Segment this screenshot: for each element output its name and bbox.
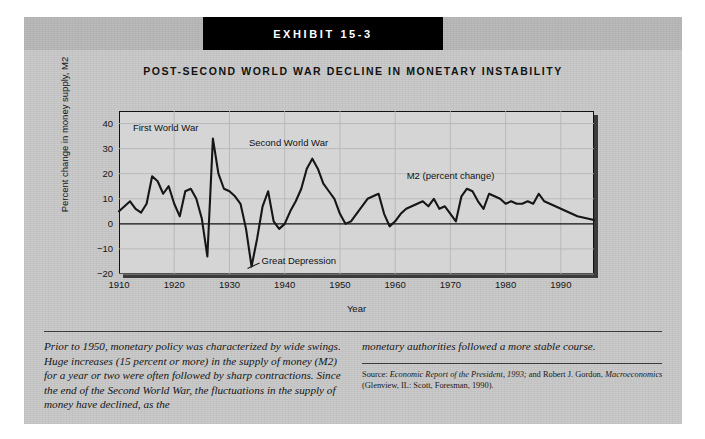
y-axis-tick-label: 30 xyxy=(79,144,113,154)
gridlines xyxy=(119,111,594,274)
x-axis-tick-label: 1950 xyxy=(320,280,360,290)
x-axis-tick-label: 1920 xyxy=(154,280,194,290)
y-axis-tick-label: −10 xyxy=(79,244,113,254)
exhibit-banner: EXHIBIT 15-3 xyxy=(203,17,443,50)
caption-divider xyxy=(44,331,662,332)
source-label: Source: xyxy=(362,370,390,379)
caption-right-column: monetary authorities followed a more sta… xyxy=(362,339,662,354)
x-axis-tick-label: 1980 xyxy=(486,280,526,290)
exhibit-banner-label: EXHIBIT 15-3 xyxy=(273,28,373,40)
exhibit-panel: EXHIBIT 15-3 POST-SECOND WORLD WAR DECLI… xyxy=(24,17,682,424)
y-axis-tick-label: 10 xyxy=(79,194,113,204)
y-axis-tick-label: 20 xyxy=(79,169,113,179)
source-title-1: Economic Report of the President, 1993; xyxy=(390,370,527,379)
data-line-m2 xyxy=(119,139,594,267)
chart-annotation: Great Depression xyxy=(262,255,336,266)
y-axis-tick-label: −20 xyxy=(79,269,113,279)
plot-canvas xyxy=(24,89,682,329)
x-axis-title: Year xyxy=(119,303,594,314)
y-axis-tick-label: 40 xyxy=(79,119,113,129)
chart-figure: Percent change in money supply, M2 Year … xyxy=(24,89,682,329)
annotation-leader-line xyxy=(248,263,260,269)
source-publisher: (Glenview, IL: Scott, Foresman, 1990). xyxy=(362,381,494,390)
y-axis-tick-label: 0 xyxy=(79,219,113,229)
x-axis-tick-label: 1970 xyxy=(430,280,470,290)
chart-annotation: First World War xyxy=(133,122,198,133)
x-axis-tick-label: 1940 xyxy=(265,280,305,290)
x-axis-tick-label: 1930 xyxy=(209,280,249,290)
x-axis-tick-label: 1960 xyxy=(375,280,415,290)
x-axis-tick-label: 1990 xyxy=(541,280,581,290)
y-axis-title: Percent change in money supply, M2 xyxy=(59,55,70,215)
source-title-2: Macroeconomics xyxy=(605,370,662,379)
chart-title: POST-SECOND WORLD WAR DECLINE IN MONETAR… xyxy=(24,65,682,77)
source-note: Source: Economic Report of the President… xyxy=(362,369,664,392)
caption-left-column: Prior to 1950, monetary policy was chara… xyxy=(44,339,344,412)
source-divider xyxy=(362,363,662,364)
source-author: and Robert J. Gordon, xyxy=(527,370,605,379)
chart-annotation: M2 (percent change) xyxy=(407,170,495,181)
chart-annotation: Second World War xyxy=(249,137,328,148)
x-axis-tick-label: 1910 xyxy=(99,280,139,290)
